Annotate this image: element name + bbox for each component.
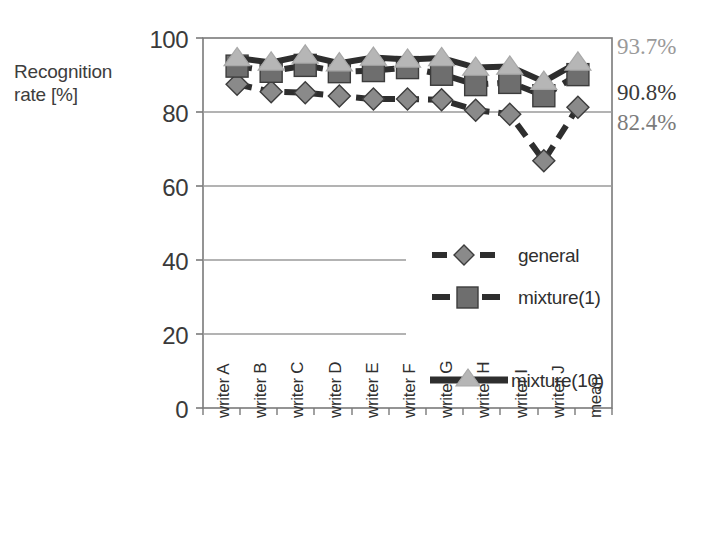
data-point (294, 82, 316, 104)
annotation-mixture10-value: 93.7% (617, 34, 676, 60)
y-axis-ticks (196, 38, 203, 408)
data-point (565, 52, 591, 70)
legend-label-mixture10: mixture(10) (511, 370, 604, 392)
x-tick-writer-e: writer E (363, 363, 383, 418)
data-point (431, 89, 453, 111)
annotation-general-value: 82.4% (617, 110, 676, 136)
legend-marker-mixture1 (457, 287, 478, 308)
x-tick-writer-a: writer A (214, 364, 234, 418)
legend-marker-general (454, 245, 474, 265)
x-tick-writer-b: writer B (251, 363, 271, 418)
plot-svg (0, 0, 703, 533)
data-point (465, 99, 487, 121)
data-point (362, 88, 384, 110)
data-point (465, 74, 487, 96)
x-tick-writer-g: writer G (437, 361, 457, 418)
data-point (260, 81, 282, 103)
x-tick-writer-h: writer H (474, 362, 494, 418)
data-point (397, 88, 419, 110)
recognition-rate-chart: Recognition rate [%] 100 80 60 40 20 0 (0, 0, 703, 533)
x-tick-writer-d: writer D (326, 362, 346, 418)
data-point (431, 63, 453, 85)
annotation-mixture1-value: 90.8% (617, 80, 676, 106)
x-tick-writer-c: writer C (288, 362, 308, 418)
legend-label-general: general (518, 245, 579, 267)
x-tick-writer-f: writer F (400, 364, 420, 418)
data-point (328, 85, 350, 107)
legend-label-mixture1: mixture(1) (518, 287, 601, 309)
series-layer (224, 45, 591, 172)
data-point (499, 103, 521, 125)
